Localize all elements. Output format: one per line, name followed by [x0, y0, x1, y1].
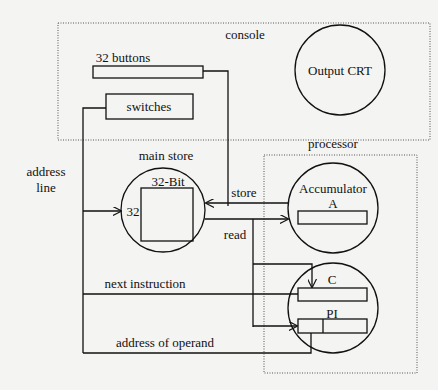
console-label: console: [225, 27, 265, 42]
next-instruction-label: next instruction: [104, 276, 186, 291]
address-line-label-1: address: [27, 164, 66, 179]
address-width-label: 32: [127, 204, 140, 219]
store-label: store: [231, 185, 257, 200]
accumulator-name: A: [328, 196, 338, 211]
main-store-title: main store: [139, 148, 194, 163]
main-store-memory-square: [141, 188, 193, 241]
architecture-diagram: console 32 buttons switches Output CRT p…: [0, 0, 438, 390]
buttons-label: 32 buttons: [96, 50, 151, 65]
buttons-register: [93, 66, 203, 78]
read-label: read: [224, 227, 247, 242]
switches-bus-line: [83, 108, 106, 353]
output-crt-label: Output CRT: [308, 63, 372, 78]
buttons-line: [203, 71, 228, 206]
accumulator-register: [298, 211, 367, 224]
c-register: [298, 288, 367, 301]
c-label: C: [328, 272, 337, 287]
main-store-width-label: 32-Bit: [151, 174, 185, 189]
address-of-operand-label: address of operand: [116, 335, 215, 350]
switches-label: switches: [127, 99, 172, 114]
read-to-c-arrow: [253, 264, 312, 287]
address-line-label-2: line: [36, 180, 56, 195]
pi-register: [298, 319, 367, 333]
processor-label: processor: [308, 136, 358, 151]
accumulator-label: Accumulator: [299, 181, 368, 196]
